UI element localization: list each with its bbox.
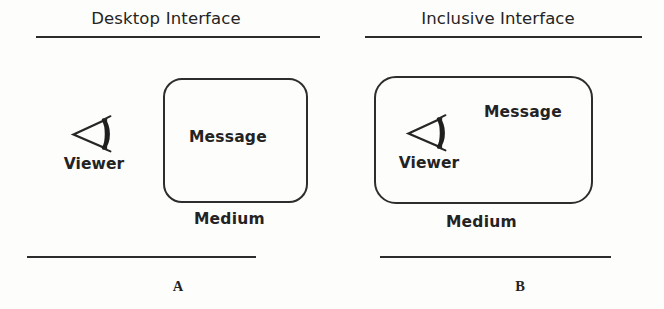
title-underline-a	[36, 36, 320, 38]
viewer-eye-cone-icon	[68, 113, 120, 153]
medium-caption-a: Medium	[194, 210, 265, 228]
panel-desktop-interface: Desktop Interface Message Viewer Medium	[0, 0, 332, 309]
panel-inclusive-interface: Inclusive Interface Message Viewer Mediu…	[332, 0, 664, 309]
panel-bottom-rule-b	[380, 256, 611, 258]
viewer-eye-cone-icon	[403, 112, 455, 152]
panel-title-a: Desktop Interface	[0, 9, 332, 28]
message-label-a: Message	[189, 128, 267, 146]
viewer-group-a: Viewer	[52, 113, 136, 173]
panel-title-b: Inclusive Interface	[332, 9, 664, 28]
title-underline-b	[365, 36, 642, 38]
figure-root: Desktop Interface Message Viewer Medium	[0, 0, 664, 309]
message-label-b: Message	[484, 103, 562, 121]
panel-letter-b: B	[508, 278, 532, 295]
viewer-label-a: Viewer	[52, 155, 136, 173]
panel-bottom-rule-a	[27, 256, 256, 258]
viewer-label-b: Viewer	[387, 154, 471, 172]
medium-caption-b: Medium	[446, 213, 517, 231]
panel-letter-a: A	[166, 278, 190, 295]
viewer-group-b: Viewer	[387, 112, 471, 172]
